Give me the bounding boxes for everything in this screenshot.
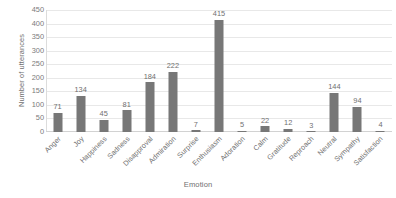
bar-value-label: 415 [213, 10, 225, 18]
x-axis-title: Emotion [0, 180, 396, 189]
bar[interactable] [330, 93, 339, 132]
x-axis-tick-group: Anger [46, 133, 69, 177]
bar[interactable] [168, 72, 177, 132]
y-axis-tick-label: 200 [20, 74, 44, 82]
bar-group: 7 [184, 10, 207, 132]
bar[interactable] [145, 82, 154, 132]
bar-group: 71 [46, 10, 69, 132]
y-axis-tick-label: 0 [20, 128, 44, 136]
bar[interactable] [353, 107, 362, 132]
bar-group: 12 [277, 10, 300, 132]
bar-group: 45 [92, 10, 115, 132]
bar-value-label: 184 [144, 73, 156, 81]
bar-value-label: 222 [167, 62, 179, 70]
bar-group: 22 [254, 10, 277, 132]
bar-value-label: 81 [123, 101, 131, 109]
bar-group: 144 [323, 10, 346, 132]
bar-value-label: 7 [194, 121, 198, 129]
bar-group: 4 [369, 10, 392, 132]
bar[interactable] [99, 120, 108, 132]
bar-value-label: 144 [328, 83, 340, 91]
y-axis-tick-label: 350 [20, 33, 44, 41]
x-axis-tick-label: Calm [252, 135, 270, 153]
y-axis-tick-label: 50 [20, 114, 44, 122]
y-axis-tick-label: 400 [20, 20, 44, 28]
x-axis-tick-label: Joy [72, 135, 86, 149]
x-axis-tick-group: Satisfaction [369, 133, 392, 177]
bar[interactable] [53, 113, 62, 132]
bar-value-label: 12 [284, 119, 292, 127]
x-axis-tick-group: Adoration [231, 133, 254, 177]
x-axis-tick-label: Anger [43, 135, 62, 154]
bar-group: 81 [115, 10, 138, 132]
bar-value-label: 22 [261, 117, 269, 125]
y-axis-tick-labels: 050100150200250300350400450 [20, 10, 44, 132]
bar-group: 184 [138, 10, 161, 132]
bar-group: 222 [161, 10, 184, 132]
bar-series: 7113445811842227415522123144944 [46, 10, 392, 132]
bar[interactable] [307, 131, 316, 132]
bar-value-label: 45 [100, 110, 108, 118]
plot-area: 7113445811842227415522123144944 [46, 10, 392, 132]
bar-chart: Number of utterances 0501001502002503003… [0, 0, 396, 198]
y-axis-tick-label: 300 [20, 47, 44, 55]
bar-group: 3 [300, 10, 323, 132]
bar-value-label: 94 [353, 97, 361, 105]
y-axis-tick-label: 100 [20, 101, 44, 109]
bar-group: 94 [346, 10, 369, 132]
bar-group: 415 [207, 10, 230, 132]
bar[interactable] [284, 129, 293, 132]
bar[interactable] [214, 20, 223, 133]
bar[interactable] [122, 110, 131, 132]
bar-group: 5 [231, 10, 254, 132]
y-axis-tick-label: 150 [20, 87, 44, 95]
bar-value-label: 71 [53, 103, 61, 111]
x-axis-tick-labels: AngerJoyHappinessSadnessDisapprovalAdmir… [46, 133, 392, 177]
bar-value-label: 3 [309, 122, 313, 130]
bar[interactable] [376, 131, 385, 132]
bar[interactable] [191, 130, 200, 132]
y-axis-tick-label: 250 [20, 60, 44, 68]
bar-value-label: 5 [240, 121, 244, 129]
bar-group: 134 [69, 10, 92, 132]
bar[interactable] [76, 96, 85, 132]
bar[interactable] [261, 126, 270, 132]
y-axis-tick-label: 450 [20, 6, 44, 14]
bar[interactable] [238, 131, 247, 132]
bar-value-label: 134 [74, 86, 86, 94]
bar-value-label: 4 [378, 121, 382, 129]
